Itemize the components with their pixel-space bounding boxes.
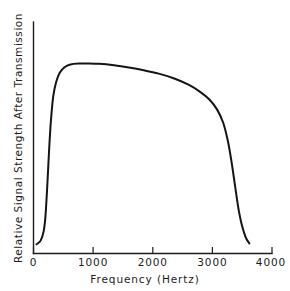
x-axis-ticks xyxy=(34,247,273,254)
y-axis-title: Relative Signal Strength After Transmiss… xyxy=(12,13,24,263)
x-tick-label-0: 0 xyxy=(30,256,38,268)
x-tick-label-4000: 4000 xyxy=(256,256,286,268)
chart-figure: 0 1000 2000 3000 4000 Frequency (Hertz) … xyxy=(0,0,290,291)
signal-strength-curve xyxy=(36,63,249,244)
x-tick-label-3000: 3000 xyxy=(197,256,227,268)
x-axis-title: Frequency (Hertz) xyxy=(90,273,199,285)
x-tick-label-1000: 1000 xyxy=(78,256,108,268)
x-tick-label-2000: 2000 xyxy=(138,256,168,268)
chart-plot-area: 0 1000 2000 3000 4000 Frequency (Hertz) … xyxy=(0,0,290,291)
